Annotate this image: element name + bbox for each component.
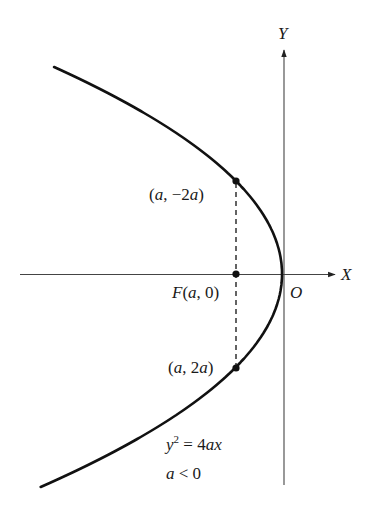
condition-label: a < 0 [166,464,201,483]
parabola-diagram: Y X O (a, −2a) F(a, 0) (a, 2a) y2 = 4ax … [0,0,374,515]
top-point-label: (a, −2a) [149,185,204,204]
equation-label: y2 = 4ax [164,433,222,454]
x-axis-label: X [340,265,352,284]
focus-point-dot [232,270,239,277]
origin-label: O [290,283,302,302]
top-point-dot [232,177,239,184]
focus-label: F(a, 0) [171,283,219,302]
bottom-point-dot [232,364,239,371]
bottom-point-label: (a, 2a) [168,358,213,377]
parabola-curve [41,67,282,487]
y-axis-label: Y [278,24,289,43]
